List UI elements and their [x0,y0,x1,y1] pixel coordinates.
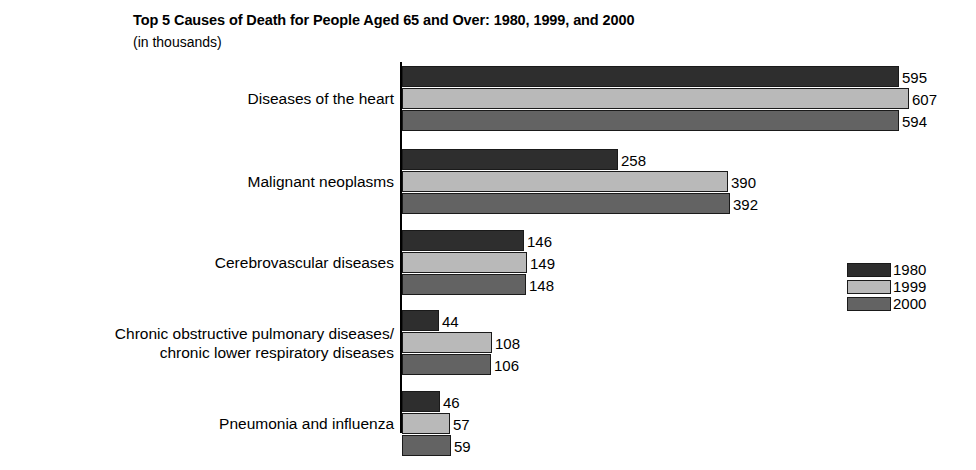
category-label: Chronic obstructive pulmonary diseases/c… [115,324,394,362]
bar-row: 146 [402,230,962,251]
bar-row: 57 [402,413,962,434]
bar-value-label: 146 [524,233,552,248]
legend-swatch [847,297,891,311]
chart-legend: 198019992000 [847,262,967,313]
chart-title: Top 5 Causes of Death for People Aged 65… [133,12,634,28]
bar-row: 59 [402,435,962,456]
legend-swatch [847,280,891,294]
bar[interactable] [402,274,526,295]
bar-row: 595 [402,66,962,87]
bar-value-label: 148 [526,277,554,292]
bar-value-label: 594 [899,113,927,128]
bar-row: 390 [402,171,962,192]
legend-item[interactable]: 1999 [847,279,967,295]
bar[interactable] [402,391,440,412]
category-label: Pneumonia and influenza [219,414,394,433]
bar[interactable] [402,193,730,214]
bar-value-label: 59 [451,438,471,453]
chart-subtitle: (in thousands) [133,34,222,50]
bar-value-label: 44 [439,313,459,328]
bar[interactable] [402,110,899,131]
bar[interactable] [402,230,524,251]
bar[interactable] [402,252,527,273]
bar-value-label: 108 [492,335,520,350]
bar[interactable] [402,88,909,109]
category-label: Cerebrovascular diseases [215,253,394,272]
legend-swatch [847,263,891,277]
category-label-line: chronic lower respiratory diseases [115,343,394,362]
bar-value-label: 392 [730,196,758,211]
bar-value-label: 149 [527,255,555,270]
chart-container: Top 5 Causes of Death for People Aged 65… [0,0,976,470]
bar-value-label: 258 [618,152,646,167]
category-label-line: Pneumonia and influenza [219,414,394,433]
bar-value-label: 607 [909,91,937,106]
category-label-line: Cerebrovascular diseases [215,253,394,272]
bar-row: 607 [402,88,962,109]
category-label: Diseases of the heart [248,89,394,108]
plot-area: 5956075942583903921461491484410810646575… [400,62,976,433]
bar[interactable] [402,171,728,192]
bar-row: 258 [402,149,962,170]
bar-value-label: 390 [728,174,756,189]
bar[interactable] [402,310,439,331]
bar[interactable] [402,354,491,375]
bar[interactable] [402,149,618,170]
bar[interactable] [402,332,492,353]
legend-item[interactable]: 2000 [847,296,967,312]
legend-label: 1999 [893,279,926,295]
bar-row: 594 [402,110,962,131]
category-label-line: Malignant neoplasms [248,172,394,191]
bar-row: 108 [402,332,962,353]
legend-label: 1980 [893,262,926,278]
bar-value-label: 46 [440,394,460,409]
bar-value-label: 57 [450,416,470,431]
bar-value-label: 595 [899,69,927,84]
category-label: Malignant neoplasms [248,172,394,191]
bar-row: 44 [402,310,962,331]
bar[interactable] [402,413,450,434]
bar-row: 46 [402,391,962,412]
bar-value-label: 106 [491,357,519,372]
bar[interactable] [402,66,899,87]
bar-row: 392 [402,193,962,214]
bar[interactable] [402,435,451,456]
legend-item[interactable]: 1980 [847,262,967,278]
category-label-line: Chronic obstructive pulmonary diseases/ [115,324,394,343]
legend-label: 2000 [893,296,926,312]
category-label-line: Diseases of the heart [248,89,394,108]
bar-row: 106 [402,354,962,375]
